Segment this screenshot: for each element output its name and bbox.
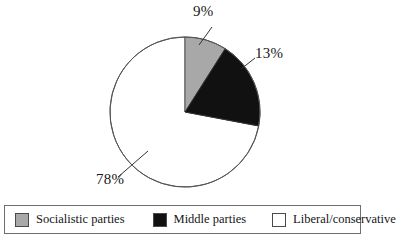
chart-legend: Socialistic parties Middle parties Liber… [4, 205, 361, 234]
pie-chart-area: 9% 13% 78% [0, 0, 369, 200]
legend-swatch-liberal-conservative [272, 213, 286, 227]
legend-item-socialistic-parties[interactable]: Socialistic parties [15, 206, 125, 233]
pie-data-label-socialistic-parties: 9% [193, 3, 213, 20]
legend-label-middle-parties: Middle parties [174, 213, 247, 226]
pie-chart-svg [0, 0, 369, 200]
legend-item-middle-parties[interactable]: Middle parties [153, 206, 247, 233]
leader-line-middle-parties [241, 58, 255, 69]
legend-swatch-socialistic-parties [15, 213, 29, 227]
legend-label-liberal-conservative: Liberal/conservative [293, 213, 396, 226]
legend-swatch-middle-parties [153, 213, 167, 227]
legend-item-liberal-conservative[interactable]: Liberal/conservative [272, 206, 396, 233]
pie-data-label-liberal-conservative: 78% [96, 171, 124, 188]
legend-label-socialistic-parties: Socialistic parties [36, 213, 125, 226]
pie-data-label-middle-parties: 13% [255, 45, 283, 62]
